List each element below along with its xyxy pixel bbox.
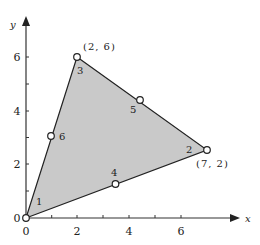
point-3-label: 3	[77, 65, 83, 76]
vertex-label-top: (2, 6)	[83, 41, 116, 52]
triangle-diagram: 0 2 4 6 0 2 4 6 x y (2, 6) (7, 2) 1 2 3 …	[0, 0, 260, 245]
point-4-label: 4	[111, 167, 117, 178]
x-tick-label-0: 0	[23, 225, 30, 238]
point-6-label: 6	[59, 131, 65, 142]
y-axis-name: y	[9, 19, 16, 30]
point-2-marker	[204, 147, 211, 154]
y-axis-arrow-icon	[22, 16, 30, 26]
point-6-marker	[48, 133, 55, 140]
point-1-marker	[23, 215, 30, 222]
point-5-marker	[137, 97, 144, 104]
y-tick-label-6: 6	[14, 51, 21, 64]
x-axis-arrow-icon	[230, 214, 240, 222]
point-4-marker	[112, 181, 119, 188]
vertex-label-right: (7, 2)	[196, 158, 229, 169]
point-2-label: 2	[186, 144, 192, 155]
x-tick-label-2: 2	[74, 225, 81, 238]
y-tick-label-4: 4	[14, 105, 21, 118]
point-5-label: 5	[130, 104, 136, 115]
x-tick-label-4: 4	[126, 225, 133, 238]
point-1-label: 1	[36, 196, 42, 207]
x-tick-label-6: 6	[178, 225, 185, 238]
point-3-marker	[74, 54, 81, 61]
y-tick-label-2: 2	[14, 158, 21, 171]
x-axis-name: x	[245, 213, 251, 224]
y-tick-label-0: 0	[14, 212, 21, 225]
